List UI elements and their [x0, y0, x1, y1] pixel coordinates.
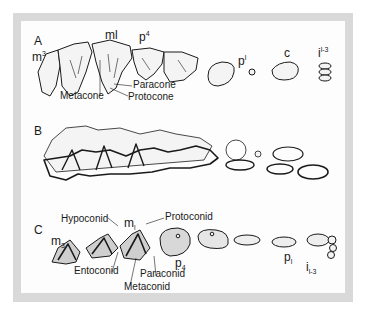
cusp-label-protoconid: Protoconid	[165, 212, 213, 222]
panel-b-teeth	[44, 126, 328, 180]
tooth-label-p1-upper: pl	[238, 56, 246, 66]
tooth-label-m3-lower: m3	[51, 236, 65, 246]
tooth-label-m1-lower: ml	[124, 218, 136, 228]
panel-c-teeth	[52, 228, 337, 264]
tooth-label-m3-upper: m3	[32, 52, 46, 62]
cusp-label-entoconid: Entoconid	[74, 266, 118, 276]
tooth-label-p4-lower: p4	[175, 258, 186, 268]
tooth-label-incisors-lower: il-3	[306, 262, 316, 272]
tooth-label-p1-lower: pl	[284, 252, 292, 262]
cusp-label-protocone: Protocone	[128, 92, 174, 102]
cusp-label-hypoconid: Hypoconid	[61, 214, 108, 224]
cusp-label-paracone: Paracone	[133, 80, 176, 90]
tooth-label-m1-upper: ml	[105, 30, 118, 40]
panel-letter-c: C	[34, 225, 43, 235]
panel-letter-b: B	[34, 126, 42, 136]
tooth-label-p4-upper: p4	[139, 32, 150, 42]
tooth-label-canine-upper: c	[284, 48, 290, 58]
cusp-label-metacone: Metacone	[60, 91, 104, 101]
panel-letter-a: A	[34, 36, 42, 46]
tooth-label-incisors-upper: il-3	[318, 48, 328, 58]
cusp-label-metaconid: Metaconid	[124, 282, 170, 292]
cusp-label-paraconid: Paraconid	[140, 269, 185, 279]
